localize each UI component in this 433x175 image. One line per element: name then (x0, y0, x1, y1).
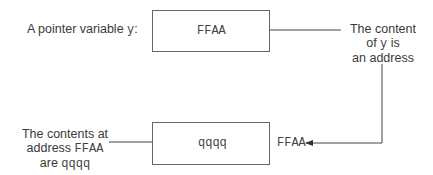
annotation-content-is-address: The content of y is an address (340, 22, 426, 65)
contents-value: qqqq (61, 157, 90, 171)
memory-cell-value: qqqq (198, 136, 227, 150)
label-text: A pointer variable (27, 22, 127, 36)
address-value: FFAA (75, 142, 104, 156)
memory-cell-box: qqqq (152, 122, 270, 165)
pointer-value: FFAA (197, 24, 226, 38)
annotation-line: an address (340, 51, 426, 65)
annotation-line: address FFAA (20, 141, 110, 156)
annotation-line: The contents at (20, 127, 110, 141)
label-colon: : (134, 22, 137, 36)
pointer-box: FFAA (152, 10, 270, 52)
annotation-line: of y is (340, 36, 426, 51)
text: are (40, 156, 62, 170)
pointer-variable-label: A pointer variable y: (27, 22, 138, 37)
arrow-to-address (306, 64, 382, 143)
text: address (27, 141, 75, 155)
text: is (387, 36, 400, 50)
annotation-contents-at-address: The contents at address FFAA are qqqq (20, 127, 110, 171)
memory-address-label: FFAA (277, 136, 306, 150)
annotation-line: are qqqq (20, 156, 110, 171)
text: of (366, 36, 380, 50)
annotation-line: The content (340, 22, 426, 36)
